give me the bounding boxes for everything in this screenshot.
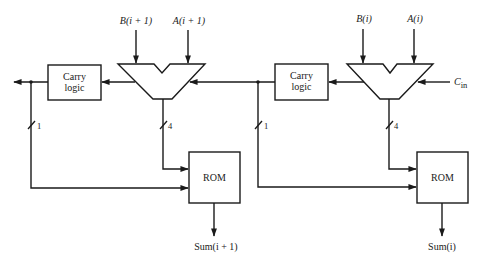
bus-width-4-right: 4 — [394, 121, 399, 131]
sum-output-label-i-plus-1: Sum(i + 1) — [194, 241, 237, 253]
rom-label-i: ROM — [431, 172, 454, 183]
stage-i-plus-1: B(i + 1) A(i + 1) Carry logic 1 4 ROM Su… — [14, 15, 240, 253]
carry-logic-label-line2: logic — [65, 82, 86, 93]
bus-width-4-left: 4 — [168, 121, 173, 131]
input-label-b-i-plus-1: B(i + 1) — [120, 15, 153, 27]
stage-i: B(i) A(i) Cin Carry logic 1 4 ROM Sum(i) — [255, 13, 468, 253]
carry-in-label: Cin — [454, 76, 468, 90]
carry-logic-label-line1: Carry — [63, 71, 86, 82]
input-label-a-i: A(i) — [406, 13, 423, 25]
carry-logic-label-line2: logic — [292, 81, 313, 92]
input-label-a-i-plus-1: A(i + 1) — [172, 15, 206, 27]
rom-label-i-plus-1: ROM — [203, 172, 226, 183]
sum-output-label-i: Sum(i) — [428, 241, 456, 253]
carry-logic-label-line1: Carry — [290, 70, 313, 81]
bus-width-1-left: 1 — [37, 121, 41, 131]
input-label-b-i: B(i) — [356, 13, 372, 25]
carry-in-label-subscript: in — [461, 80, 468, 90]
alu-to-rom-wire-left — [163, 99, 188, 169]
bus-width-1-right: 1 — [264, 121, 268, 131]
alu-to-rom-wire-right — [389, 99, 416, 169]
carry-lookahead-rom-adder-diagram: B(i + 1) A(i + 1) Carry logic 1 4 ROM Su… — [0, 0, 483, 266]
